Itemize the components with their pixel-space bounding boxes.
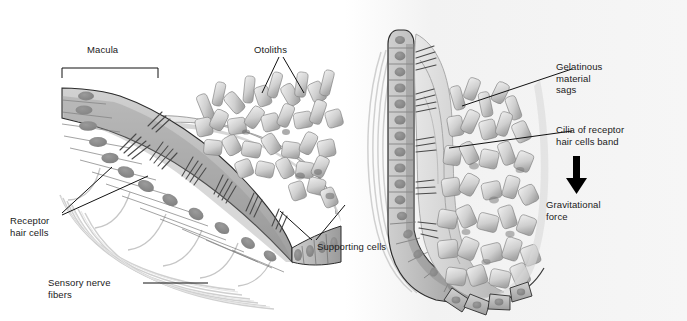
label-sensory-nerve-fibers: Sensory nerve fibers — [48, 277, 111, 300]
label-receptor-hair-cells: Receptor hair cells — [10, 215, 49, 238]
label-gravitational-force: Gravitational force — [546, 199, 601, 222]
label-otoliths: Otoliths — [254, 44, 287, 56]
receptor-hair-cells-leader-lower — [62, 176, 148, 215]
label-cilia-of-receptor-hair-cells-band: Cilia of receptor hair cells band — [556, 124, 624, 147]
macula-bracket — [62, 68, 158, 78]
label-gelatinous-material-sags: Gelatinous material sags — [556, 61, 602, 96]
label-macula: Macula — [87, 44, 118, 56]
figure-canvas: Macula Otoliths Receptor hair cells Sens… — [0, 0, 687, 321]
receptor-hair-cells-leader-upper — [62, 167, 112, 213]
left-panel-illustration — [60, 69, 344, 309]
label-supporting-cells: Supporting cells — [317, 241, 386, 253]
